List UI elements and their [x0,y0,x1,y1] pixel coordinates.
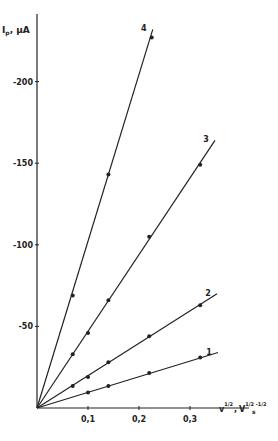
series-label-3: 3 [203,135,209,144]
y-axis-label: Ip, µA [2,25,30,37]
data-point [71,293,75,297]
data-point [86,331,90,335]
x-tick-label: 0,3 [183,415,197,424]
data-point [86,390,90,394]
data-point [150,36,154,40]
y-tick-label: -50 [19,322,34,331]
chart: -50-100-150-2000,10,20,3 1234 Ip, µA v1/… [0,0,278,441]
y-tick-label: -150 [13,159,33,168]
axis-labels: Ip, µA v1/2,V1/2s-1/2 [2,25,267,415]
series-line-4 [37,29,153,408]
data-point [147,235,151,239]
data-point [198,163,202,167]
y-tick-label: -200 [13,78,33,87]
series-line-1 [37,353,218,408]
series-line-2 [37,294,217,408]
x-tick-label: 0,2 [132,415,146,424]
y-tick-label: -100 [13,241,33,250]
data-point [106,384,110,388]
data-point [106,298,110,302]
series-label-2: 2 [205,289,211,298]
chart-svg: -50-100-150-2000,10,20,3 1234 Ip, µA v1/… [0,0,278,441]
data-point [71,352,75,356]
data-point [106,173,110,177]
x-tick-label: 0,1 [81,415,96,424]
series-label-1: 1 [206,348,212,357]
data-point [86,375,90,379]
data-point [106,360,110,364]
data-point [198,303,202,307]
series-lines: 1234 [37,24,218,408]
series-line-3 [37,140,215,408]
data-point [71,384,75,388]
data-point [147,371,151,375]
axes: -50-100-150-2000,10,20,3 [13,14,249,424]
data-point [198,355,202,359]
data-point [147,334,151,338]
series-label-4: 4 [141,24,147,33]
